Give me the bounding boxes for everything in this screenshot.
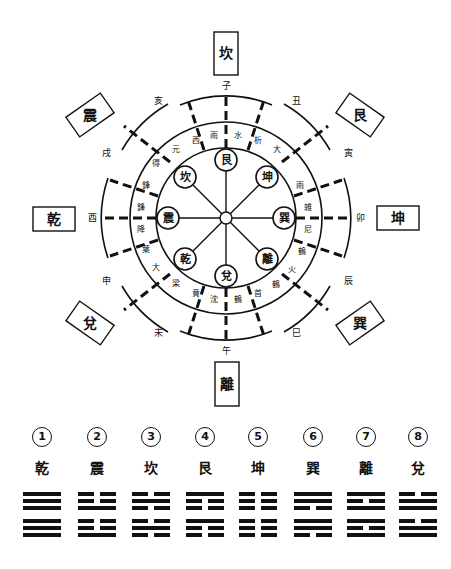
broken-line xyxy=(100,519,116,523)
solid-line xyxy=(347,533,385,537)
bagua-diagram: 艮 坤 巽 離 兌 乾 震 坎 雨 水 析 大 雨 雑 尼 鶴 火 鶴 首 沈 … xyxy=(0,0,451,420)
broken-line xyxy=(239,506,255,510)
ring-label: 雑 xyxy=(304,202,312,212)
broken-line xyxy=(208,526,224,530)
hexagram-icon xyxy=(186,492,224,552)
trigram-name: 乾 xyxy=(17,457,67,477)
broken-line xyxy=(208,506,224,510)
number-badge: 4 xyxy=(195,427,215,447)
ring-label: 大 xyxy=(273,144,281,154)
solid-line xyxy=(186,519,224,523)
branch-label: 巳 xyxy=(292,328,301,338)
broken-line xyxy=(100,526,116,530)
ring-label: 西 xyxy=(192,136,200,145)
solid-line xyxy=(347,519,385,523)
ring-label: 降 xyxy=(137,224,145,234)
branch-label: 酉 xyxy=(88,213,97,223)
number-badge: 1 xyxy=(32,427,52,447)
solid-line xyxy=(294,519,332,523)
circle-label: 兌 xyxy=(221,269,232,283)
broken-line xyxy=(154,492,170,496)
broken-line xyxy=(186,533,202,537)
broken-line xyxy=(132,492,148,496)
solid-line xyxy=(23,526,61,530)
box-label-right: 坤 xyxy=(391,210,405,226)
number-badge: 6 xyxy=(303,427,323,447)
solid-line xyxy=(132,526,170,530)
solid-line xyxy=(23,499,61,503)
box-label-top: 坎 xyxy=(219,45,234,61)
solid-line xyxy=(399,499,437,503)
legend-item: 6巽 xyxy=(288,425,338,477)
solid-line xyxy=(294,492,332,496)
broken-line xyxy=(316,533,332,537)
solid-line xyxy=(294,526,332,530)
broken-line xyxy=(261,526,277,530)
trigram-name: 坤 xyxy=(233,457,283,477)
broken-line xyxy=(132,533,148,537)
solid-line xyxy=(399,526,437,530)
branch-label: 申 xyxy=(102,275,111,286)
solid-line xyxy=(186,492,224,496)
number-badge: 5 xyxy=(248,427,268,447)
legend-item: 8兌 xyxy=(393,425,443,477)
branch-label: 未 xyxy=(154,327,163,338)
box-label-nw: 震 xyxy=(82,107,98,123)
hexagram-icon xyxy=(78,492,116,552)
legend-item: 5坤 xyxy=(233,425,283,477)
broken-line xyxy=(261,492,277,496)
circle-label: 震 xyxy=(162,212,175,225)
broken-line xyxy=(421,492,437,496)
ring-label: 鋒 xyxy=(137,202,145,212)
solid-line xyxy=(399,533,437,537)
broken-line xyxy=(186,526,202,530)
number-badge: 2 xyxy=(87,427,107,447)
ring-label: 火 xyxy=(288,265,296,274)
ring-label: 大 xyxy=(152,262,160,272)
box-label-bottom: 離 xyxy=(220,376,234,392)
circle-label: 艮 xyxy=(221,153,233,167)
legend-item: 1乾 xyxy=(17,425,67,477)
ring-label: 沈 xyxy=(210,294,218,304)
ring-label: 賁 xyxy=(192,288,200,298)
broken-line xyxy=(239,492,255,496)
ring-label: 葉 xyxy=(142,244,150,254)
solid-line xyxy=(23,519,61,523)
broken-line xyxy=(239,533,255,537)
hexagram-icon xyxy=(399,492,437,552)
broken-line xyxy=(208,499,224,503)
legend-item: 3坎 xyxy=(126,425,176,477)
box-label-ne: 艮 xyxy=(353,107,368,123)
circle-label: 坤 xyxy=(262,170,273,184)
trigram-legend: 1乾2震3坎4艮5坤6巽7離8兌 xyxy=(0,420,451,569)
trigram-name: 艮 xyxy=(180,457,230,477)
broken-line xyxy=(347,499,363,503)
broken-line xyxy=(421,519,437,523)
branch-label: 丑 xyxy=(292,96,301,106)
ring-label: 尼 xyxy=(304,225,312,234)
broken-line xyxy=(239,526,255,530)
broken-line xyxy=(399,519,415,523)
solid-line xyxy=(23,533,61,537)
broken-line xyxy=(261,533,277,537)
solid-line xyxy=(294,499,332,503)
ring-label: 析 xyxy=(254,135,262,145)
box-label-se: 巽 xyxy=(353,315,367,331)
solid-line xyxy=(23,506,61,510)
broken-line xyxy=(78,519,94,523)
broken-line xyxy=(261,499,277,503)
broken-line xyxy=(100,492,116,496)
trigram-name: 坎 xyxy=(126,457,176,477)
ring-label: 元 xyxy=(172,145,180,154)
broken-line xyxy=(369,526,385,530)
trigram-name: 震 xyxy=(72,457,122,477)
circle-label: 坎 xyxy=(180,170,192,184)
broken-line xyxy=(399,492,415,496)
trigram-name: 離 xyxy=(341,457,391,477)
hexagram-icon xyxy=(239,492,277,552)
number-badge: 8 xyxy=(408,427,428,447)
broken-line xyxy=(369,499,385,503)
solid-line xyxy=(347,506,385,510)
box-label-sw: 兌 xyxy=(83,315,97,331)
broken-line xyxy=(186,499,202,503)
